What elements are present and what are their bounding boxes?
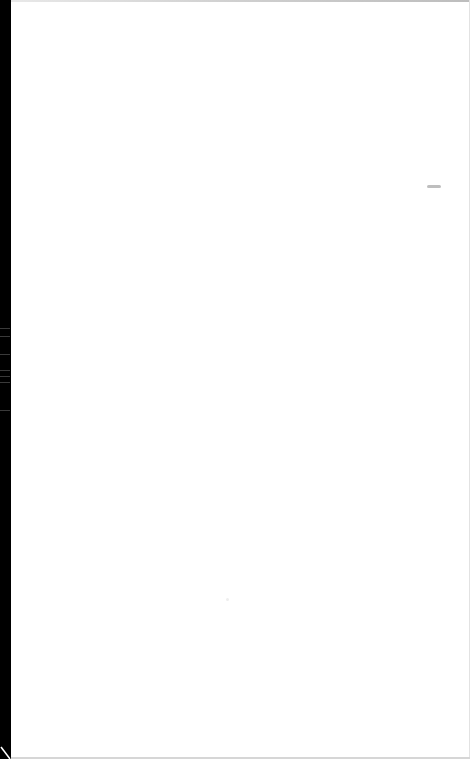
border-streak (0, 328, 10, 329)
blank-page-area (11, 2, 469, 757)
gray-smudge-icon (427, 185, 441, 188)
border-streak (0, 370, 10, 371)
border-streak (0, 336, 10, 337)
left-black-border (0, 0, 11, 759)
border-streak (0, 354, 10, 355)
border-streak (0, 376, 10, 377)
border-streak (0, 382, 10, 383)
border-streak (0, 410, 10, 411)
faint-speck-icon (226, 598, 229, 601)
page-curl-icon (0, 739, 16, 759)
